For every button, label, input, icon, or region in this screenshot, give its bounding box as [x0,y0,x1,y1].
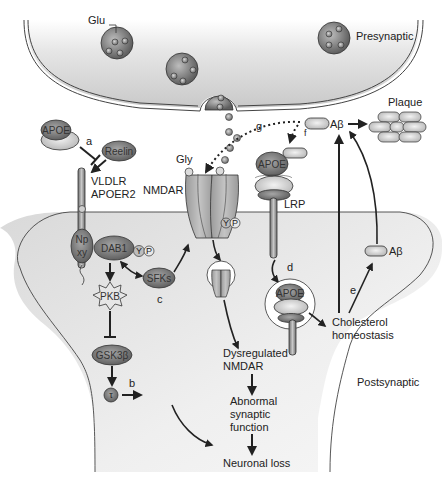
nmdar-label: NMDAR [143,184,183,196]
glu-label: Glu [88,14,105,26]
label-a: a [86,135,93,147]
sfks-label: SFKs [147,273,171,284]
plaque [369,112,426,142]
tau: τ [104,388,118,402]
neuronal-loss-label: Neuronal loss [223,457,291,469]
reelin: Reelin [102,141,136,161]
nmdar-p-label: P [232,218,238,228]
abnormal-line3: function [230,421,269,433]
abnormal-line2: synaptic [230,408,271,420]
abeta-lower [365,246,387,256]
gsk3b: GSK3β [92,345,132,365]
apoe-lrp-label: APOE [258,159,286,170]
postsynaptic-label: Postsynaptic [357,376,420,388]
npxy-bottom-label: xy [77,247,87,258]
nmdar-y-label: Y [223,218,229,228]
abeta-lower-label: Aβ [389,245,403,257]
lrp-label: LRP [284,198,305,210]
pkb-label: PKB [100,291,120,302]
abnormal-line1: Abnormal [230,395,277,407]
dysregulated-line1: Dysregulated [223,347,288,359]
inhibition-a [80,147,96,160]
cholesterol-line2: homeostasis [332,329,394,341]
vldlr-apoer2-receptor [78,168,86,285]
dysregulated-line2: NMDAR [223,360,263,372]
vesicle-glu-2 [166,53,198,85]
apoe-left: APOE [41,120,79,150]
label-g: g [256,120,262,132]
label-e: e [350,284,356,296]
presynaptic-label: Presynaptic [356,30,414,42]
reelin-label: Reelin [105,146,133,157]
tau-label: τ [109,390,113,400]
dab1-y-label: Y [136,246,142,256]
abeta-top-label: Aβ [330,118,344,130]
gly-label: Gly [176,153,193,165]
nmdar: Y P [185,167,240,238]
vesicle-glu-3 [318,22,350,54]
dab1-p-label: P [146,246,152,256]
plaque-label: Plaque [388,96,422,108]
dab1-label: DAB1 [101,243,128,254]
vesicle-glu-1 [101,27,133,59]
label-d: d [287,261,293,273]
gsk3b-label: GSK3β [96,350,129,361]
sfks: SFKs [143,268,175,288]
label-f: f [304,128,307,138]
vldlr-label: VLDLR [91,175,127,187]
apoe-endosome-label: APOE [276,288,304,299]
dotted-arrow-f [290,125,298,142]
npxy-top-label: Np [76,234,89,245]
alzheimers-synapse-diagram: Presynaptic Glu [0,0,442,480]
apoe-left-label: APOE [42,125,70,136]
apoer2-label: APOER2 [91,188,136,200]
label-b: b [129,377,135,389]
cholesterol-line1: Cholesterol [332,316,388,328]
npxy-motif: Np xy [71,229,93,263]
label-c: c [157,293,163,305]
abeta-top [305,118,329,129]
